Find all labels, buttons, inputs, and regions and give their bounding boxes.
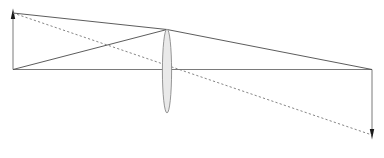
- ray-chief-dashed: [13, 13, 372, 135]
- converging-lens: [162, 29, 171, 113]
- ray-object-base-to-lens: [13, 30, 167, 70]
- ray-lens-to-image: [167, 30, 372, 70]
- ray-object-tip-to-lens: [13, 13, 167, 30]
- optics-ray-diagram: [0, 0, 384, 158]
- image-arrowhead-icon: [370, 129, 374, 140]
- ray-diagram-canvas: [0, 0, 384, 158]
